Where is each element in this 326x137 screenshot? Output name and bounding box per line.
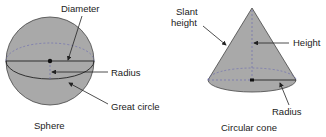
caption-cone: Circular cone [221, 122, 277, 133]
label-sphere-radius: Radius [111, 67, 141, 78]
sphere-shape [6, 17, 94, 105]
cone-shape [208, 8, 296, 92]
label-cone-radius: Radius [272, 106, 302, 117]
caption-sphere: Sphere [34, 120, 65, 131]
label-diameter: Diameter [61, 3, 100, 14]
label-slant-height-line2: height [171, 17, 197, 28]
label-height: Height [293, 37, 320, 48]
label-great-circle: Great circle [111, 101, 160, 112]
label-slant-height-line1: Slant [176, 6, 198, 17]
